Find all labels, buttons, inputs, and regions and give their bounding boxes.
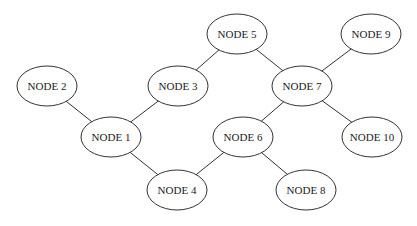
node-label: NODE 5 bbox=[218, 28, 257, 40]
node-label: NODE 3 bbox=[159, 80, 198, 92]
node-n5: NODE 5 bbox=[207, 14, 267, 54]
node-label: NODE 6 bbox=[224, 131, 263, 143]
node-n4: NODE 4 bbox=[147, 170, 207, 210]
node-label: NODE 9 bbox=[352, 28, 391, 40]
node-label: NODE 4 bbox=[158, 184, 197, 196]
node-n3: NODE 3 bbox=[148, 66, 208, 106]
node-label: NODE 1 bbox=[92, 131, 131, 143]
node-label: NODE 7 bbox=[283, 80, 322, 92]
node-n2: NODE 2 bbox=[17, 66, 77, 106]
node-n9: NODE 9 bbox=[341, 14, 401, 54]
node-n8: NODE 8 bbox=[276, 170, 336, 210]
edges-layer bbox=[47, 34, 372, 190]
node-label: NODE 10 bbox=[350, 131, 395, 143]
node-label: NODE 8 bbox=[287, 184, 326, 196]
node-n1: NODE 1 bbox=[81, 117, 141, 157]
nodes-layer: NODE 1NODE 2NODE 3NODE 4NODE 5NODE 6NODE… bbox=[17, 14, 402, 210]
network-diagram: NODE 1NODE 2NODE 3NODE 4NODE 5NODE 6NODE… bbox=[0, 0, 417, 226]
node-n7: NODE 7 bbox=[272, 66, 332, 106]
node-label: NODE 2 bbox=[28, 80, 67, 92]
node-n6: NODE 6 bbox=[213, 117, 273, 157]
node-n10: NODE 10 bbox=[342, 117, 402, 157]
